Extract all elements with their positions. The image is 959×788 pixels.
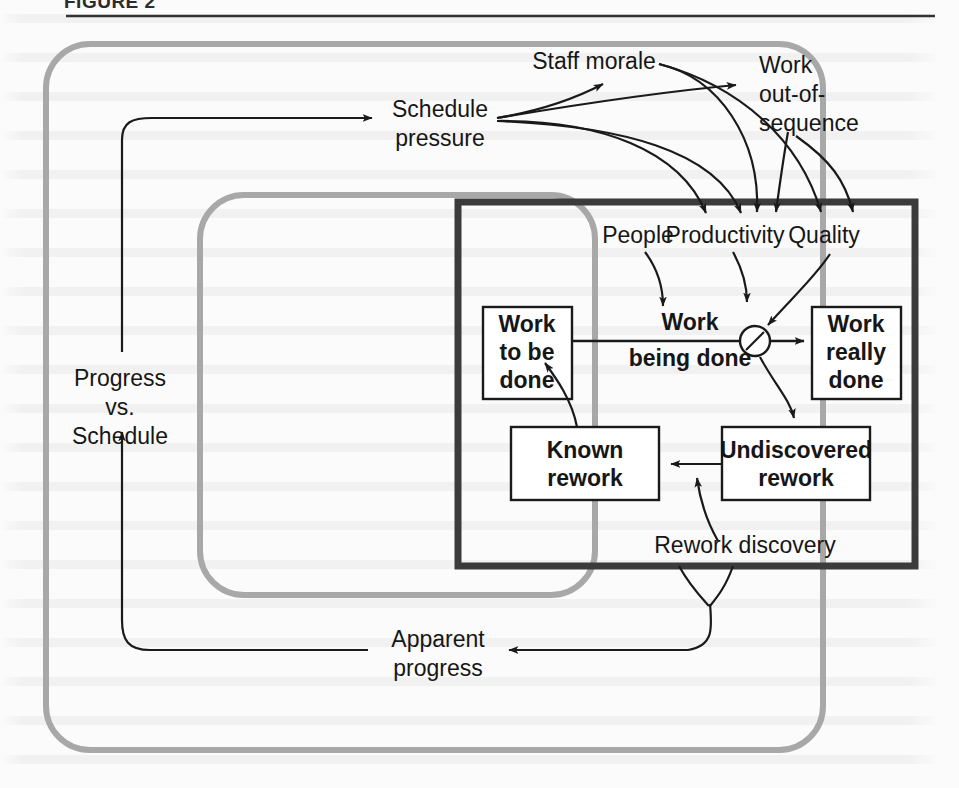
box-work-really-done-line3: done — [829, 367, 884, 393]
causal-loop-diagram: Staff morale Schedule pressure Work out-… — [0, 0, 959, 788]
label-staff-morale: Staff morale — [532, 48, 656, 74]
box-known-rework-line2: rework — [547, 465, 623, 491]
label-productivity: Productivity — [666, 222, 785, 248]
link-schedule-pressure-to-staff-morale — [497, 84, 603, 118]
label-progress-vs-schedule-line2: vs. — [105, 394, 134, 420]
label-schedule-pressure-line2: pressure — [395, 125, 484, 151]
box-undiscovered-rework-line2: rework — [758, 465, 834, 491]
label-rework-discovery: Rework discovery — [654, 532, 836, 558]
figure-page: FIGURE 2 — [0, 0, 959, 788]
label-progress-vs-schedule-line1: Progress — [74, 365, 166, 391]
link-schedule-pressure-to-work-out-of-sequence — [497, 85, 736, 118]
label-progress-vs-schedule-line3: Schedule — [72, 423, 168, 449]
flow-label-line1: Work — [661, 309, 718, 335]
label-apparent-progress-line2: progress — [393, 655, 482, 681]
progress-reporting-links — [509, 566, 733, 650]
flow-label-line2: being done — [629, 345, 752, 371]
link-to-apparent-progress — [509, 604, 711, 650]
link-apparent-progress-to-progress-vs-schedule — [122, 432, 368, 650]
stock-boxes: Work to be done Work really done Known r… — [483, 307, 901, 500]
link-staff-morale-to-productivity — [659, 64, 757, 212]
box-work-really-done-line1: Work — [827, 311, 884, 337]
box-work-to-be-done-line1: Work — [498, 311, 555, 337]
link-flow-to-undiscovered-rework — [760, 357, 794, 418]
label-work-out-of-sequence-line3: sequence — [759, 110, 859, 136]
box-known-rework-line1: Known — [547, 437, 624, 463]
box-work-to-be-done-line2: to be — [500, 339, 555, 365]
box-work-to-be-done-line3: done — [500, 367, 555, 393]
label-work-out-of-sequence-line1: Work — [759, 52, 813, 78]
box-undiscovered-rework-line1: Undiscovered — [720, 437, 872, 463]
label-quality: Quality — [788, 222, 860, 248]
box-work-really-done-line2: really — [826, 339, 886, 365]
label-apparent-progress-group: Apparent progress — [391, 626, 485, 681]
label-apparent-progress-line1: Apparent — [391, 626, 485, 652]
label-people: People — [602, 222, 674, 248]
variable-labels-inside: People Productivity Quality — [602, 222, 860, 248]
link-progress-vs-schedule-to-schedule-pressure — [122, 118, 372, 352]
label-work-out-of-sequence-line2: out-of- — [759, 81, 825, 107]
link-people-to-work-being-done — [645, 252, 663, 306]
label-schedule-pressure-line1: Schedule — [392, 96, 488, 122]
link-productivity-to-work-being-done — [733, 252, 747, 302]
label-progress-vs-schedule-group: Progress vs. Schedule — [72, 365, 168, 449]
link-boundary-right-strand — [710, 566, 733, 606]
link-boundary-left-strand — [679, 566, 709, 606]
